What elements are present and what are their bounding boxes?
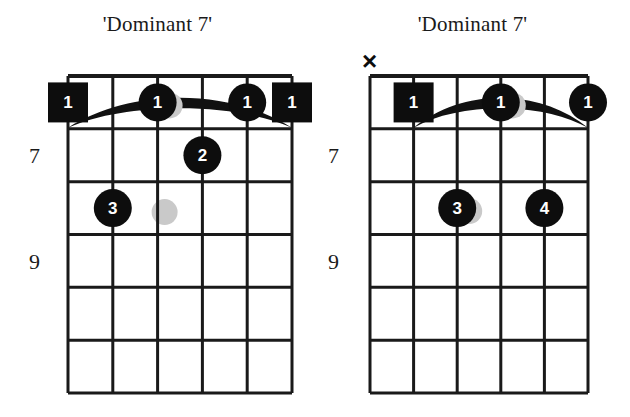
finger-marker-circle <box>228 83 266 121</box>
finger-marker-square <box>48 82 88 122</box>
fretboard-grid <box>315 0 630 417</box>
finger-marker-circle <box>139 83 177 121</box>
finger-marker-circle <box>438 189 476 227</box>
finger-marker-circle <box>183 136 221 174</box>
chord-diagram-right: 'Dominant 7'79×11134 <box>315 0 630 417</box>
finger-marker-circle <box>482 83 520 121</box>
fretboard-grid <box>0 0 315 417</box>
finger-marker-square <box>394 82 434 122</box>
chord-chart-stage: 'Dominant 7'79111123'Dominant 7'79×11134 <box>0 0 630 417</box>
finger-marker-square <box>272 82 312 122</box>
ghost-dot <box>152 199 178 225</box>
finger-marker-circle <box>94 189 132 227</box>
finger-marker-circle <box>525 189 563 227</box>
chord-diagram-left: 'Dominant 7'79111123 <box>0 0 315 417</box>
finger-marker-circle <box>569 83 607 121</box>
